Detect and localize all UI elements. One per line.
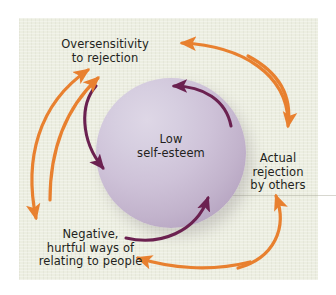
center-label-line2: self-esteem (96, 147, 246, 161)
actual-rejection-line2: rejection (238, 166, 318, 180)
outer-arc-right-down (248, 56, 289, 126)
node-label-negative-ways: Negative, hurtful ways of relating to pe… (28, 228, 153, 269)
outer-arc-bottom-right-up (238, 196, 280, 268)
actual-rejection-line3: by others (238, 179, 318, 193)
outer-arc-bottom-left (138, 258, 250, 268)
figure-canvas: Low self-esteem Oversensitivity to rejec… (0, 0, 336, 295)
oversensitivity-line1: Oversensitivity (50, 38, 160, 52)
oversensitivity-line2: to rejection (50, 52, 160, 66)
node-label-actual-rejection: Actual rejection by others (238, 152, 318, 193)
node-label-oversensitivity: Oversensitivity to rejection (50, 38, 160, 65)
negative-ways-line2: hurtful ways of (28, 242, 153, 256)
inner-arc-top (174, 86, 231, 126)
center-label: Low self-esteem (96, 133, 246, 160)
center-label-line1: Low (96, 133, 246, 147)
outer-arc-left-double (32, 70, 88, 218)
negative-ways-line1: Negative, (28, 228, 153, 242)
outer-arc-top-right (182, 43, 288, 120)
actual-rejection-line1: Actual (238, 152, 318, 166)
negative-ways-line3: relating to people (28, 255, 153, 269)
